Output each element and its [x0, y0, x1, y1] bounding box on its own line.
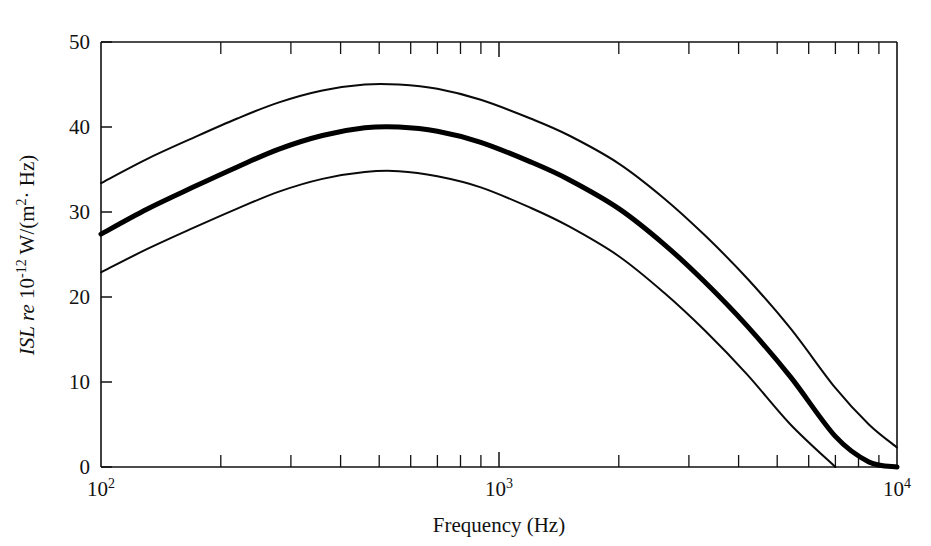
y-tick-label-30: 30: [69, 200, 90, 224]
y-axis-title-units-exponent: 2: [14, 198, 29, 205]
y-tick-label-40: 40: [69, 115, 90, 139]
x-tick-label-100-mantissa: 10: [87, 477, 108, 501]
x-tick-label-100-exponent: 2: [108, 476, 115, 491]
x-tick-label-1000-mantissa: 10: [485, 477, 506, 501]
y-axis-title-units: W/(m: [15, 205, 39, 254]
y-tick-label-0: 0: [80, 455, 91, 479]
figure-container: 0 10 20 30 40 50 102 103 104 Frequency (…: [0, 0, 931, 546]
y-tick-label-10: 10: [69, 370, 90, 394]
y-axis-title-mantissa: 10: [15, 278, 39, 299]
chart-canvas: 0 10 20 30 40 50 102 103 104 Frequency (…: [0, 0, 931, 546]
y-axis-title-symbol: ISL: [15, 326, 39, 356]
x-tick-label-10000-mantissa: 10: [883, 477, 904, 501]
y-axis-title-units-tail: · Hz): [15, 155, 39, 199]
chart-background: [0, 0, 931, 546]
x-axis-title: Frequency (Hz): [433, 513, 565, 537]
y-tick-label-50: 50: [69, 30, 90, 54]
x-tick-label-1000-exponent: 3: [506, 476, 513, 491]
y-axis-title-exponent: -12: [14, 259, 29, 278]
y-axis-title-re: re: [15, 304, 39, 321]
y-tick-label-20: 20: [69, 285, 90, 309]
x-tick-label-10000-exponent: 4: [904, 476, 911, 491]
y-axis-title: ISL re 10-12 W/(m2· Hz): [14, 155, 39, 357]
